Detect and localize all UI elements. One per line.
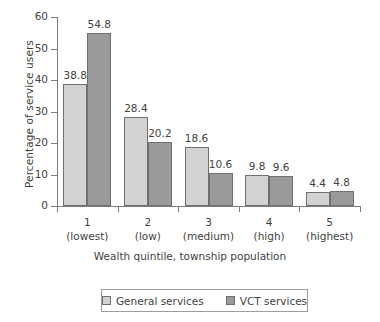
legend-item-vct-services: VCT services bbox=[226, 295, 307, 307]
plot-area: 010203040506038.854.828.420.218.610.69.8… bbox=[57, 17, 360, 206]
y-axis-tick-label: 30 bbox=[35, 105, 48, 117]
bar-group: 28.420.2 bbox=[124, 17, 172, 206]
y-axis-tick-mark bbox=[51, 143, 57, 144]
legend-label-general-services: General services bbox=[116, 295, 204, 307]
x-axis-tick-mark bbox=[118, 206, 119, 212]
legend-label-vct-services: VCT services bbox=[240, 295, 307, 307]
y-axis-tick-label: 40 bbox=[35, 73, 48, 85]
bar-general-services bbox=[185, 147, 209, 206]
x-axis-line bbox=[57, 206, 360, 207]
y-axis-tick-label: 10 bbox=[35, 168, 48, 180]
x-axis-tick-mark bbox=[360, 206, 361, 212]
x-axis-tick-mark bbox=[299, 206, 300, 212]
bar-general-services bbox=[245, 175, 269, 206]
bar-value-label: 28.4 bbox=[118, 102, 154, 114]
y-axis-tick-label: 0 bbox=[41, 199, 48, 211]
bar-value-label: 9.6 bbox=[263, 161, 299, 173]
legend-swatch-icon-vct-services bbox=[226, 296, 235, 305]
bar-general-services bbox=[306, 192, 330, 206]
chart-legend: General services VCT services bbox=[101, 289, 308, 312]
x-axis-tick-mark bbox=[57, 206, 58, 212]
bar-group: 4.44.8 bbox=[306, 17, 354, 206]
bar-general-services bbox=[63, 84, 87, 206]
bar-group: 18.610.6 bbox=[185, 17, 233, 206]
bar-value-label: 20.2 bbox=[142, 127, 178, 139]
bar-vct-services bbox=[148, 142, 172, 206]
y-axis-tick-label: 20 bbox=[35, 136, 48, 148]
bar-vct-services bbox=[269, 176, 293, 206]
bar-group: 9.89.6 bbox=[245, 17, 293, 206]
bar-vct-services bbox=[209, 173, 233, 206]
legend-item-general-services: General services bbox=[102, 295, 204, 307]
bar-vct-services bbox=[87, 33, 111, 206]
bar-value-label: 10.6 bbox=[203, 158, 239, 170]
bar-vct-services bbox=[330, 191, 354, 206]
x-axis-category-number: 5 bbox=[285, 215, 375, 229]
y-axis-tick-mark bbox=[51, 112, 57, 113]
bar-value-label: 18.6 bbox=[179, 132, 215, 144]
x-axis-category-label: 5(highest) bbox=[285, 215, 375, 243]
x-axis-tick-mark bbox=[178, 206, 179, 212]
y-axis-tick-label: 50 bbox=[35, 42, 48, 54]
y-axis-title: Percentage of service users bbox=[23, 19, 35, 209]
y-axis-tick-label: 60 bbox=[35, 10, 48, 22]
x-axis-category-sublabel: (highest) bbox=[285, 229, 375, 243]
y-axis-tick-mark bbox=[51, 17, 57, 18]
bar-value-label: 4.8 bbox=[324, 176, 360, 188]
x-axis-tick-mark bbox=[239, 206, 240, 212]
y-axis-line bbox=[57, 17, 58, 206]
bar-value-label: 54.8 bbox=[81, 18, 117, 30]
x-axis-title: Wealth quintile, township population bbox=[0, 250, 380, 262]
y-axis-tick-mark bbox=[51, 175, 57, 176]
bar-group: 38.854.8 bbox=[63, 17, 111, 206]
y-axis-tick-mark bbox=[51, 49, 57, 50]
legend-swatch-icon-general-services bbox=[102, 296, 111, 305]
bar-chart: Percentage of service users 010203040506… bbox=[0, 0, 380, 322]
y-axis-tick-mark bbox=[51, 80, 57, 81]
